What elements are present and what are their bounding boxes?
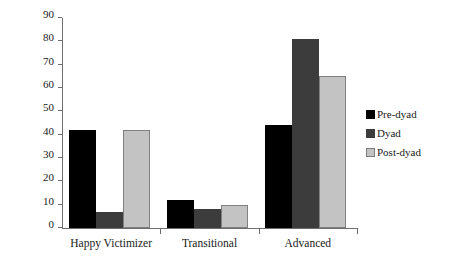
bar bbox=[167, 200, 194, 228]
bar bbox=[265, 125, 292, 228]
bar bbox=[221, 205, 248, 228]
legend-item: Dyad bbox=[366, 125, 421, 141]
bar bbox=[96, 212, 123, 228]
legend-label: Post-dyad bbox=[377, 146, 421, 158]
x-axis-line bbox=[62, 228, 358, 229]
plot-area bbox=[62, 18, 357, 228]
bar bbox=[319, 76, 346, 228]
bar bbox=[194, 209, 221, 228]
legend-item: Pre-dyad bbox=[366, 106, 421, 122]
x-axis-label: Happy Victimizer bbox=[62, 237, 160, 250]
x-tick-mark bbox=[160, 229, 161, 234]
y-tick-label: 10 bbox=[43, 196, 54, 207]
x-tick-mark bbox=[259, 229, 260, 234]
bar bbox=[69, 130, 96, 228]
bar bbox=[292, 39, 319, 228]
y-tick-label: 40 bbox=[43, 126, 54, 137]
chart-legend: Pre-dyadDyadPost-dyad bbox=[366, 106, 421, 163]
y-tick-label: 0 bbox=[49, 219, 55, 230]
y-tick-label: 30 bbox=[43, 149, 54, 160]
x-tick-mark bbox=[357, 229, 358, 234]
legend-swatch-icon bbox=[366, 148, 375, 157]
legend-label: Pre-dyad bbox=[377, 108, 417, 120]
y-tick-label: 90 bbox=[43, 9, 54, 20]
legend-swatch-icon bbox=[366, 129, 375, 138]
legend-item: Post-dyad bbox=[366, 144, 421, 160]
y-tick-label: 80 bbox=[43, 32, 54, 43]
x-axis-label: Transitional bbox=[160, 237, 258, 250]
x-axis-label: Advanced bbox=[259, 237, 357, 250]
y-tick-label: 20 bbox=[43, 172, 54, 183]
y-tick-label: 70 bbox=[43, 56, 54, 67]
y-tick-label: 50 bbox=[43, 102, 54, 113]
y-tick-label: 60 bbox=[43, 79, 54, 90]
bar bbox=[123, 130, 150, 228]
legend-label: Dyad bbox=[377, 127, 401, 139]
bar-chart: 0102030405060708090 Happy VictimizerTran… bbox=[0, 0, 450, 266]
legend-swatch-icon bbox=[366, 110, 375, 119]
